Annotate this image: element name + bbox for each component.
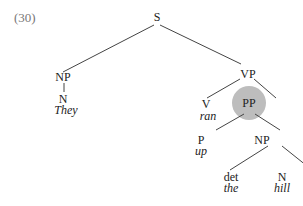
node-s: S (154, 11, 161, 23)
word-ran: ran (200, 110, 217, 122)
word-they: They (54, 104, 77, 116)
word-hill: hill (274, 182, 290, 194)
word-up: up (195, 145, 207, 157)
node-pp: PP (242, 97, 255, 109)
tree-edges (0, 0, 303, 206)
word-the: the (224, 182, 239, 194)
node-vp: VP (240, 68, 255, 80)
node-np: NP (55, 71, 70, 83)
example-number: (30) (14, 10, 36, 26)
node-np-object: NP (254, 134, 269, 146)
